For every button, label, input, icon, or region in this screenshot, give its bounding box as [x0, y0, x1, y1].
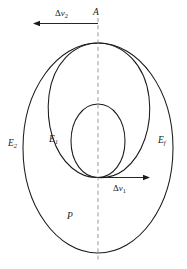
delta-v2-label: Δv2: [55, 8, 68, 19]
delta-v2-label-sub: 2: [65, 12, 68, 19]
delta-v1-arrow-head: [143, 175, 150, 180]
delta-v1-label-sub: 1: [123, 187, 126, 194]
inner-orbit-label-sub: 1: [55, 138, 58, 145]
outer-orbit-label-e2: E2: [7, 138, 18, 149]
apoapsis-label-a: A: [92, 7, 99, 17]
orbital-transfer-figure: A P E2 E1 Ef Δv1 Δv2: [0, 0, 187, 269]
inner-orbit-label-e1: E1: [48, 134, 58, 145]
final-orbit-label-sub: f: [164, 139, 167, 146]
final-orbit-label-ef: Ef: [157, 135, 167, 146]
delta-v1-label: Δv1: [113, 183, 126, 194]
periapsis-label-p: P: [66, 211, 73, 221]
orbit-diagram-root: A P E2 E1 Ef Δv1 Δv2: [0, 0, 187, 269]
outer-orbit-label-sub: 2: [14, 142, 18, 149]
delta-v2-arrow-head: [33, 21, 40, 26]
